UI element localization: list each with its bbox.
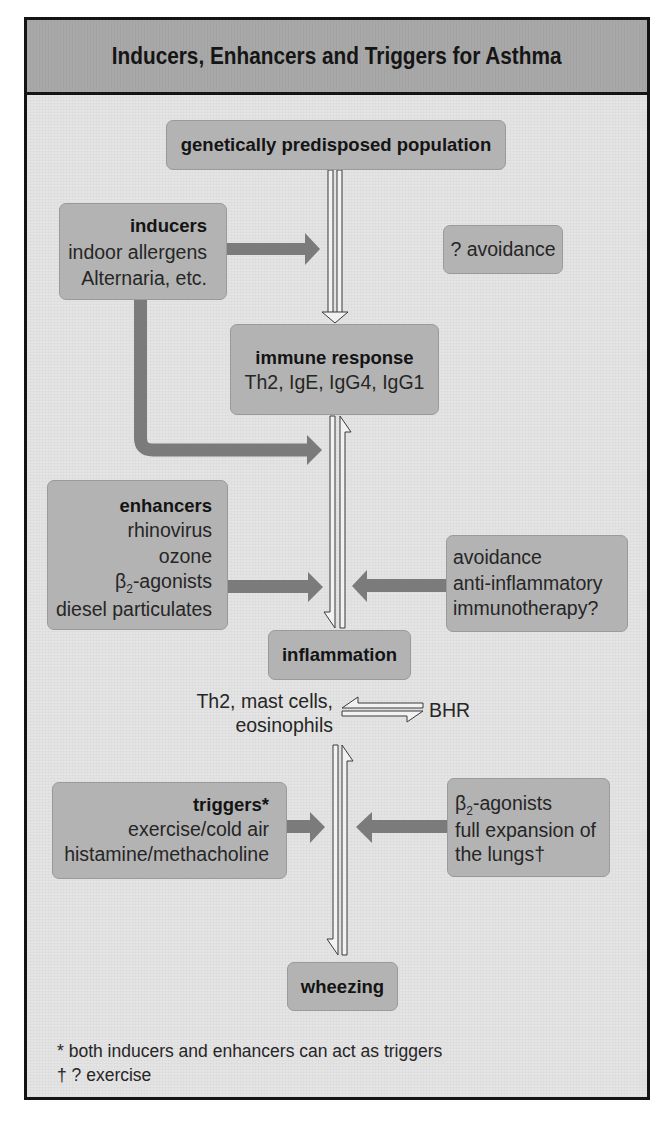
node-inducers: inducers indoor allergens Alternaria, et… — [59, 203, 227, 300]
beta-suffix: -agonists — [133, 570, 212, 592]
node-triggers-heading: triggers* — [53, 792, 269, 817]
footnote-exercise: † ? exercise — [57, 1063, 151, 1087]
node-inducers-item: Alternaria, etc. — [60, 265, 207, 291]
node-inducer-intervention: ? avoidance — [443, 225, 563, 274]
node-enhancer-interventions-item: anti-inflammatory — [453, 571, 627, 597]
harpoon-up-wheezing-to-inflammation — [342, 745, 353, 955]
harpoon-down-immune-to-inflammation — [324, 416, 335, 628]
node-enhancers-heading: enhancers — [48, 493, 212, 518]
node-immune-response-heading: immune response — [255, 345, 413, 370]
node-population-label: genetically predisposed population — [181, 134, 491, 156]
node-population: genetically predisposed population — [166, 120, 506, 170]
outline-arrows — [322, 170, 423, 955]
node-trigger-interventions-item: β2-agonists — [455, 791, 609, 818]
arrow-interventions-to-pathway — [352, 570, 448, 602]
node-wheezing-label: wheezing — [301, 976, 384, 998]
beta-symbol: β — [115, 570, 126, 592]
node-enhancers-item: diesel particulates — [48, 597, 212, 622]
harpoon-up-inflammation-to-immune — [340, 416, 351, 628]
node-enhancer-interventions-item: immunotherapy? — [453, 596, 627, 622]
arrow-trigger-interventions-to-pathway — [356, 812, 450, 843]
hollow-arrow-head-down — [322, 312, 348, 323]
harpoon-down-inflammation-to-wheezing — [327, 745, 338, 955]
node-inducer-intervention-label: ? avoidance — [450, 238, 555, 261]
node-enhancers-item: β2-agonists — [48, 569, 212, 597]
node-inflammation: inflammation — [268, 630, 411, 680]
node-inflammation-label: inflammation — [282, 644, 397, 666]
node-trigger-interventions-item: the lungs† — [455, 842, 609, 866]
node-enhancers: enhancers rhinovirus ozone β2-agonists d… — [47, 480, 228, 630]
node-immune-response: immune response Th2, IgE, IgG4, IgG1 — [230, 324, 439, 415]
beta-suffix: -agonists — [473, 792, 552, 814]
node-inducers-item: indoor allergens — [60, 239, 207, 265]
harpoon-left-bhr-to-cells — [342, 697, 423, 708]
arrow-inducers-l-head — [307, 435, 322, 465]
figure-canvas: Inducers, Enhancers and Triggers for Ast… — [0, 0, 665, 1121]
node-immune-response-detail: Th2, IgE, IgG4, IgG1 — [245, 370, 425, 395]
beta-symbol: β — [455, 792, 466, 814]
inflammation-cells-line: Th2, mast cells, — [170, 689, 333, 713]
node-enhancers-item: rhinovirus — [48, 518, 212, 543]
hollow-arrow-bar-right — [337, 170, 342, 313]
node-triggers: triggers* exercise/cold air histamine/me… — [52, 782, 287, 879]
inflammation-cells-line: eosinophils — [170, 713, 333, 737]
arrow-triggers-to-pathway — [285, 812, 325, 843]
footnote-triggers: * both inducers and enhancers can act as… — [57, 1039, 442, 1063]
inflammation-cells: Th2, mast cells, eosinophils — [170, 689, 333, 737]
hollow-arrow-bar-left — [328, 170, 333, 313]
beta-subscript: 2 — [126, 582, 133, 596]
node-trigger-interventions-item: full expansion of — [455, 818, 609, 842]
beta-subscript: 2 — [466, 804, 473, 818]
node-enhancer-interventions: avoidance anti-inflammatory immunotherap… — [446, 535, 628, 632]
node-inducers-heading: inducers — [60, 213, 207, 239]
node-triggers-item: exercise/cold air — [53, 817, 269, 842]
node-triggers-item: histamine/methacholine — [53, 842, 269, 867]
harpoon-right-cells-to-bhr — [342, 711, 423, 722]
node-trigger-interventions: β2-agonists full expansion of the lungs† — [447, 778, 610, 877]
node-enhancer-interventions-item: avoidance — [453, 545, 627, 571]
arrow-enhancers-to-pathway — [226, 572, 323, 602]
node-wheezing: wheezing — [287, 962, 398, 1011]
arrow-inducers-to-upper-pathway — [226, 233, 320, 265]
node-enhancers-item: ozone — [48, 544, 212, 569]
bhr-label: BHR — [429, 698, 470, 722]
